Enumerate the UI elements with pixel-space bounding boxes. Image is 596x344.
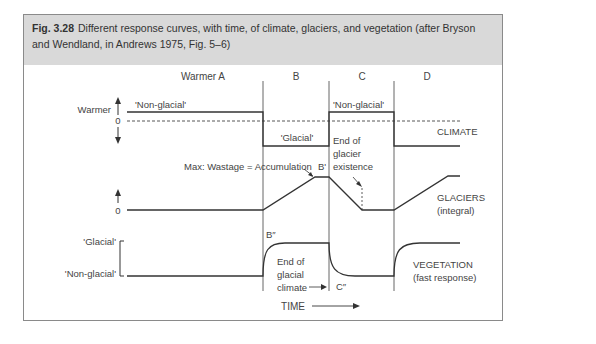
arrow-down-icon — [115, 137, 121, 144]
response-diagram: Warmer A B C D Warmer 0 'Non-glacial' 'N… — [0, 0, 596, 344]
glaciers-max-annotation: Max: Wastage = Accumulation — [184, 161, 312, 172]
arrow-right-icon — [321, 284, 327, 290]
vegetation-row-label: VEGETATION — [413, 259, 473, 270]
glaciers-row-sublabel: (integral) — [437, 205, 475, 216]
vegetation-high-label: 'Glacial' — [83, 236, 116, 247]
climate-row-label: CLIMATE — [437, 126, 477, 137]
climate-axis-label: Warmer — [78, 104, 111, 115]
glaciers-axis — [115, 189, 121, 203]
vegetation-point-c: C″ — [336, 281, 347, 292]
vegetation-end-label-1: End of — [277, 256, 305, 267]
glaciers-point-b: B' — [318, 161, 326, 172]
vegetation-bracket — [120, 241, 124, 276]
arrow-up-icon — [115, 189, 121, 196]
arrow-up-icon — [115, 97, 121, 104]
glaciers-end-label-2: glacier — [333, 148, 361, 159]
climate-zero-label: 0 — [115, 115, 120, 126]
vegetation-point-b: B″ — [266, 229, 276, 240]
glaciers-row-label: GLACIERS — [437, 192, 485, 203]
climate-low-label: 'Glacial' — [281, 132, 314, 143]
glaciers-zero-label: 0 — [115, 205, 120, 216]
arrow-right-icon — [353, 303, 360, 309]
time-label: TIME — [281, 301, 305, 312]
vegetation-row-sublabel: (fast response) — [413, 272, 476, 283]
vegetation-end-label-3: climate — [277, 282, 307, 293]
phase-label-d: D — [423, 71, 430, 82]
glaciers-curve — [127, 176, 460, 210]
phase-label-b: B — [293, 71, 300, 82]
climate-high-label: 'Non-glacial' — [135, 99, 186, 110]
glaciers-end-label-3: existence — [333, 161, 373, 172]
glaciers-end-label-1: End of — [333, 135, 361, 146]
climate-high-label-c: 'Non-glacial' — [333, 99, 384, 110]
phase-label-a: Warmer A — [181, 71, 225, 82]
vegetation-low-label: 'Non-glacial' — [65, 268, 116, 279]
phase-label-c: C — [358, 71, 365, 82]
vegetation-end-label-2: glacial — [277, 269, 304, 280]
